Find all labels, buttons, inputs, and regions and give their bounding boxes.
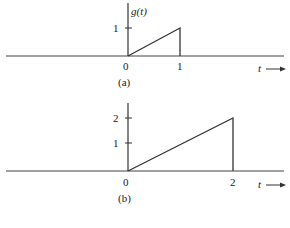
panel-a-arrow-icon	[266, 67, 286, 72]
panel-b-xtick-label-0: 0	[123, 176, 129, 188]
panel-b-ytick-label-1: 1	[113, 137, 119, 149]
panel-b-signal	[128, 118, 233, 171]
panel-a-ylabel: g(t)	[131, 5, 147, 18]
panel-a-xtick-label-0: 0	[123, 60, 129, 72]
panel-b-xlabel: t	[258, 178, 262, 190]
panel-b-xtick-label-2: 2	[230, 176, 236, 188]
panel-b-ytick-label-2: 2	[113, 112, 119, 124]
panel-b-arrow-icon	[266, 183, 286, 188]
panel-a-ytick-label-1: 1	[113, 22, 119, 34]
panel-b: 2 1 0 2 t (b)	[6, 103, 286, 205]
panel-a-xlabel: t	[258, 62, 262, 74]
panel-b-caption: (b)	[118, 192, 131, 205]
panel-a-caption: (a)	[118, 76, 131, 89]
figure: g(t) 1 0 1 t (a) 2 1 0 2 t (b)	[0, 0, 290, 228]
panel-a: g(t) 1 0 1 t (a)	[6, 3, 286, 89]
panel-a-signal	[128, 28, 180, 56]
panel-a-xtick-label-1: 1	[177, 60, 183, 72]
